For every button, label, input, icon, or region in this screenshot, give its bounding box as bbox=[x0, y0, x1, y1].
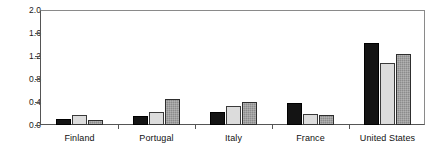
bar bbox=[149, 112, 165, 125]
bar-group-inner bbox=[118, 11, 195, 125]
bar-chart: 0.00.40.81.21.62.0 FinlandPortugalItalyF… bbox=[0, 0, 431, 158]
x-tick-label: France bbox=[296, 133, 325, 143]
bar-group-inner bbox=[272, 11, 349, 125]
x-tick-mark bbox=[349, 125, 350, 129]
x-tick-label: Portugal bbox=[139, 133, 173, 143]
bar-group-inner bbox=[41, 11, 118, 125]
bar-group bbox=[118, 11, 195, 125]
bar bbox=[210, 112, 226, 125]
bar bbox=[165, 99, 181, 125]
bar bbox=[242, 102, 258, 125]
y-axis: 0.00.40.81.21.62.0 bbox=[0, 0, 41, 158]
bar bbox=[226, 106, 242, 125]
bars-layer bbox=[41, 11, 424, 125]
x-tick-label: Finland bbox=[64, 133, 94, 143]
bar bbox=[72, 115, 88, 125]
bar-group bbox=[41, 11, 118, 125]
bar bbox=[319, 115, 335, 125]
bar-group-inner bbox=[195, 11, 272, 125]
bar bbox=[88, 120, 104, 125]
bar-group-inner bbox=[349, 11, 426, 125]
bar bbox=[133, 116, 149, 125]
x-tick-mark bbox=[118, 125, 119, 129]
bar bbox=[396, 54, 412, 125]
bar bbox=[56, 119, 72, 125]
x-tick-label: United States bbox=[360, 133, 415, 143]
y-tick-mark bbox=[35, 125, 40, 126]
y-tick-label: 2.0 bbox=[7, 6, 41, 15]
bar bbox=[380, 63, 396, 125]
bar bbox=[303, 114, 319, 126]
bar-group bbox=[349, 11, 426, 125]
bar-group bbox=[272, 11, 349, 125]
bar bbox=[287, 103, 303, 125]
bar bbox=[364, 43, 380, 125]
bar-group bbox=[195, 11, 272, 125]
x-tick-mark bbox=[272, 125, 273, 129]
x-tick-mark bbox=[195, 125, 196, 129]
x-tick-label: Italy bbox=[225, 133, 242, 143]
